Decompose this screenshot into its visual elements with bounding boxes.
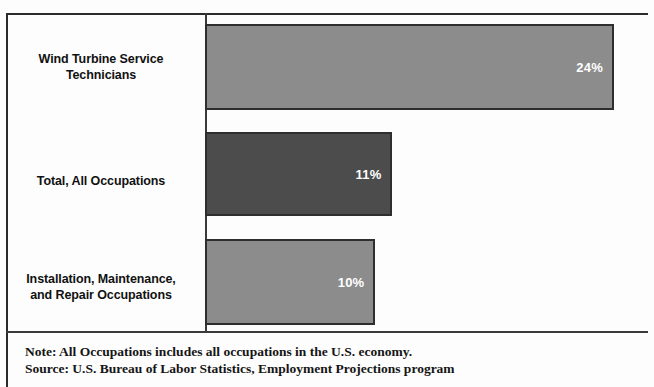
bar-value-label: 10%	[338, 275, 365, 290]
source-text: Source: U.S. Bureau of Labor Statistics,…	[25, 360, 648, 377]
category-label-line1: Installation, Maintenance,	[6, 271, 196, 287]
category-label-line2: and Repair Occupations	[6, 287, 196, 303]
category-label-installation-maintenance-repair: Installation, Maintenance, and Repair Oc…	[6, 271, 196, 303]
bar-installation-maintenance-repair: 10%	[205, 239, 375, 325]
category-axis-labels: Wind Turbine Service Technicians Total, …	[6, 13, 205, 333]
bar-wind-turbine-service-technicians: 24%	[205, 24, 614, 110]
bar-series: 24% 11% 10%	[205, 13, 648, 333]
category-label-line1: Wind Turbine Service	[6, 51, 196, 67]
bar-total-all-occupations: 11%	[205, 132, 392, 216]
category-label-line1: Total, All Occupations	[6, 173, 196, 189]
note-text: Note: All Occupations includes all occup…	[25, 343, 648, 360]
category-label-line2: Technicians	[6, 67, 196, 83]
bar-value-label: 24%	[576, 60, 603, 75]
chart-figure: Wind Turbine Service Technicians Total, …	[0, 0, 654, 387]
bar-value-label: 11%	[356, 167, 382, 182]
footnote-block: Note: All Occupations includes all occup…	[6, 333, 648, 387]
plot-area: Wind Turbine Service Technicians Total, …	[6, 13, 648, 333]
category-label-total-all-occupations: Total, All Occupations	[6, 173, 196, 189]
category-label-wind-turbine-service-technicians: Wind Turbine Service Technicians	[6, 51, 196, 83]
